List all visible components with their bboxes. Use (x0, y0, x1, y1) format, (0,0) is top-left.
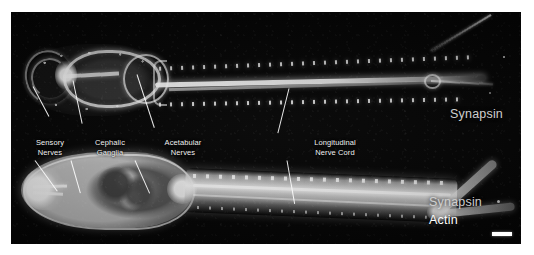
scale-bar (492, 232, 512, 236)
annotation-cephalic-ganglia: Cephalic Ganglia (79, 138, 141, 157)
annotation-longitudinal-nerve-cord: Longitudinal Nerve Cord (292, 138, 378, 157)
top-puncta-a (503, 56, 505, 58)
annotation-sensory-nerves: Sensory Nerves (19, 138, 81, 157)
top-posterior-branch-dorsal (430, 14, 491, 52)
micrograph-panel: Sensory Nerves Cephalic Ganglia Acetabul… (11, 12, 521, 244)
top-lateral-nerve-ventral (159, 97, 459, 106)
top-lateral-nerve-dorsal (159, 55, 471, 70)
figure-container: Sensory Nerves Cephalic Ganglia Acetabul… (0, 0, 534, 255)
annotation-acetabular-nerves: Acetabular Nerves (149, 138, 217, 157)
channel-label-bottom-synapsin: Synapsin (429, 195, 482, 209)
bottom-internal-organ-mass (91, 166, 163, 212)
channel-label-bottom-actin: Actin (429, 213, 458, 227)
specimen-top-synapsin (19, 34, 515, 130)
channel-label-top-synapsin: Synapsin (450, 107, 503, 121)
bottom-puncta-a (497, 200, 500, 203)
top-puncta-b (489, 92, 491, 94)
